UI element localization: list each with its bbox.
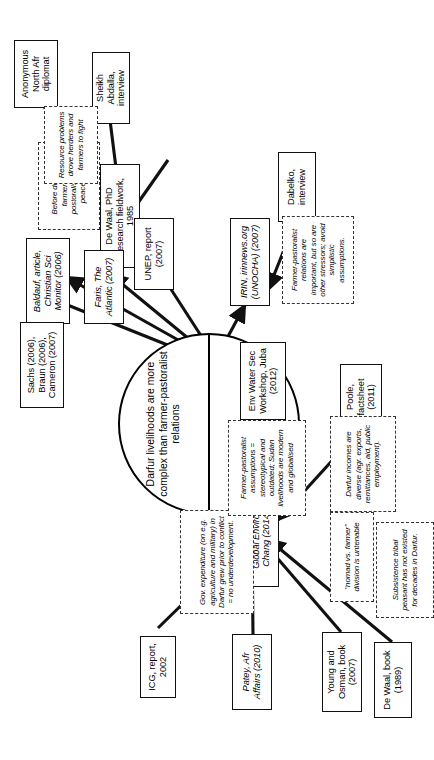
node-faris[interactable]: Faris, The Atlantic (2007) (84, 250, 124, 324)
hub-divider (208, 333, 210, 515)
node-icg[interactable]: ICG, report, 2002 (140, 636, 176, 698)
node-faris-label: Faris, The Atlantic (2007) (93, 255, 115, 319)
note-nomad-division: "nomad vs. farmer" division is untenable (330, 512, 374, 602)
note-gov-expenditure: Gov. expenditure (on e.g. agriculture an… (180, 510, 254, 614)
node-unep[interactable]: UNEP, report (2007) (134, 218, 174, 290)
hub-top-claim: Darfur livelihoods are more complex than… (122, 337, 206, 511)
note-subsistence-peasant: Subsistence tribal peasant has not exist… (376, 522, 434, 618)
node-patey[interactable]: Patey, Afr Affairs (2010) (232, 634, 272, 710)
node-baldauf[interactable]: Baldauf, article, Christian Sci Monitor … (26, 238, 70, 324)
note-resource-problems: Resource problems drove herders and farm… (44, 106, 98, 184)
node-env-water-sec[interactable]: Env Water Sec Workshop, Juba (2012) (240, 342, 286, 420)
note-darfur-incomes: Darfur incomes are diverse (agr. exports… (330, 416, 396, 512)
spacer-4 (2, 192, 8, 200)
note-relations-stressors: Farmer-pastoralist relations are importa… (282, 216, 354, 304)
node-irin[interactable]: IRIN, irinnews.org (UNOCHA) (2007) (230, 218, 270, 306)
note-farmer-pastoralist-assumptions: Farmer-pastoralist assumptions = stereot… (228, 420, 306, 516)
node-anon-diplomat[interactable]: Anonymous North Afr diplomat (14, 40, 58, 108)
node-young-osman[interactable]: Young and Osman, book (2007) (322, 632, 362, 712)
node-dewaal-1989[interactable]: De Waal, book (1989) (374, 642, 412, 718)
node-sachs-braun-cameron[interactable]: Sachs (2006), Braun (2006), Cameron (200… (20, 322, 64, 408)
node-irin-label: IRIN, irinnews.org (UNOCHA) (2007) (239, 223, 261, 301)
node-dabelko[interactable]: Dabelko, interview (278, 152, 316, 222)
